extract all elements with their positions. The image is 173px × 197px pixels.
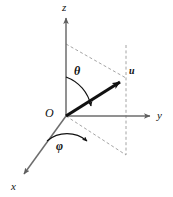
phi-angle-label: φ bbox=[56, 140, 63, 152]
vector-u-label: u bbox=[129, 66, 135, 76]
figure-canvas bbox=[0, 0, 173, 197]
y-axis-label: y bbox=[157, 110, 162, 121]
origin-label: O bbox=[45, 107, 54, 119]
theta-angle-label: θ bbox=[74, 65, 80, 77]
dashed-line-projection bbox=[66, 116, 126, 155]
z-axis-label: z bbox=[62, 2, 66, 13]
vector-u bbox=[66, 82, 120, 116]
x-axis-label: x bbox=[11, 181, 16, 192]
spherical-coordinates-figure: z y x O u θ φ bbox=[0, 0, 173, 197]
